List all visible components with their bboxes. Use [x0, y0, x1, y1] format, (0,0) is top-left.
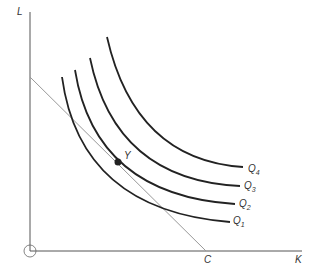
tangency-point: [115, 159, 122, 166]
k-axis-label: K: [295, 254, 302, 265]
c-label: C: [204, 254, 211, 265]
q3-label: Q3: [244, 180, 256, 193]
y-point-label: Y: [124, 150, 131, 161]
isoquant-q4: [107, 37, 243, 167]
isoquant-q3: [90, 58, 240, 186]
isoquant-diagram: [0, 0, 317, 277]
l-axis-label: L: [17, 6, 23, 17]
q4-label: Q4: [248, 163, 260, 176]
q1-label: Q1: [233, 215, 245, 228]
q2-label: Q2: [239, 198, 251, 211]
